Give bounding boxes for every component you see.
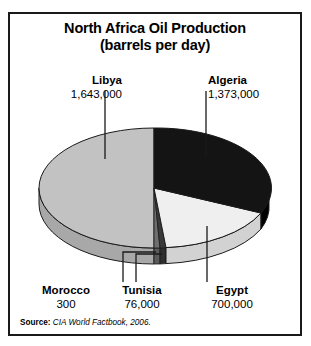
slice-label-morocco: Morocco 300 xyxy=(26,284,106,311)
slice-label-morocco-name: Morocco xyxy=(26,284,106,298)
slice-label-libya: Libya 1,643,000 xyxy=(38,74,122,101)
slice-label-libya-value: 1,643,000 xyxy=(38,88,122,102)
slice-label-algeria-name: Algeria xyxy=(208,74,300,88)
slice-label-algeria-value: 1,373,000 xyxy=(208,88,300,102)
slice-label-egypt: Egypt 700,000 xyxy=(192,284,272,311)
chart-figure: North Africa Oil Production (barrels per… xyxy=(8,12,302,336)
slice-wall-tunisia xyxy=(160,248,166,264)
slice-label-morocco-value: 300 xyxy=(26,298,106,312)
source-note: Source: CIA World Factbook, 2006. xyxy=(20,318,151,327)
slice-wall-morocco xyxy=(154,248,160,264)
slice-label-libya-name: Libya xyxy=(38,74,122,88)
slice-label-egypt-name: Egypt xyxy=(192,284,272,298)
slice-label-tunisia-value: 76,000 xyxy=(112,298,172,312)
slice-label-algeria: Algeria 1,373,000 xyxy=(208,74,300,101)
pie-chart-plot: Libya 1,643,000 Algeria 1,373,000 Morocc… xyxy=(10,14,304,338)
slice-label-tunisia: Tunisia 76,000 xyxy=(112,284,172,311)
slice-label-egypt-value: 700,000 xyxy=(192,298,272,312)
source-text: CIA World Factbook, 2006. xyxy=(53,318,151,327)
source-label: Source: xyxy=(20,318,50,327)
slice-label-tunisia-name: Tunisia xyxy=(112,284,172,298)
